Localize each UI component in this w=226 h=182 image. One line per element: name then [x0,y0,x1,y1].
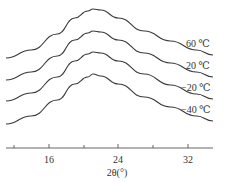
label-20c: 20 ℃ [186,60,210,71]
tick-label-16: 16 [44,154,54,165]
tick-label-32: 32 [183,154,193,165]
x-axis-title: 2θ(°) [107,167,127,179]
tick-label-24: 24 [113,154,123,165]
curve-1 [6,31,213,80]
curve-2 [6,52,213,101]
label-minus20c: −20 ℃ [181,82,210,93]
label-60c: 60 ℃ [186,38,210,49]
xrd-chart: 60 ℃ 20 ℃ −20 ℃ −40 ℃ 16 24 32 2θ(°) [0,0,226,182]
curve-0 [6,9,213,58]
label-minus40c: −40 ℃ [181,104,210,115]
